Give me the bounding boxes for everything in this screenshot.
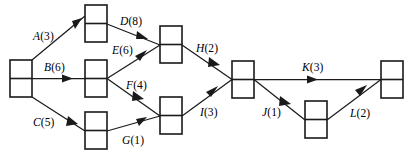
arrow-head-k <box>307 76 318 84</box>
edge-label-b: B(6) <box>44 62 65 74</box>
edge-label-a: A(3) <box>33 31 54 43</box>
node-layer <box>10 5 403 149</box>
edge-g <box>107 116 160 131</box>
edge-label-k: K(3) <box>302 62 324 74</box>
arrow-head-f <box>132 91 144 101</box>
edge-label-i: I(3) <box>200 107 218 119</box>
arrow-head-l <box>355 85 367 96</box>
arrow-head-g <box>136 117 147 126</box>
edge-label-d: D(8) <box>120 16 142 28</box>
project-network-diagram: A(3) B(6) C(5) D(8) E(6) F(4) G(1) H(2) … <box>0 0 413 164</box>
lower-right-node[interactable] <box>305 101 327 138</box>
end-node[interactable] <box>381 61 403 98</box>
top-left-node[interactable] <box>85 5 107 42</box>
edge-label-g: G(1) <box>122 135 144 147</box>
bottom-left-node[interactable] <box>85 112 107 149</box>
arrow-head-a <box>72 18 82 29</box>
merge-node[interactable] <box>232 61 254 98</box>
edge-label-j: J(1) <box>262 107 281 119</box>
middle-left-node[interactable] <box>85 60 107 97</box>
lower-mid-node[interactable] <box>160 97 182 134</box>
edge-label-l: L(2) <box>350 108 370 120</box>
arrow-head-c <box>66 116 78 126</box>
edge-b <box>32 75 85 83</box>
arrow-head-j <box>279 96 291 106</box>
arrow-head-h <box>208 57 220 67</box>
edge-label-c: C(5) <box>33 117 55 129</box>
start-node[interactable] <box>10 60 32 97</box>
edge-label-e: E(6) <box>112 45 133 57</box>
network-graph-canvas <box>0 0 413 164</box>
edge-label-f: F(4) <box>126 80 147 92</box>
arrow-head-b <box>62 75 73 83</box>
upper-mid-node[interactable] <box>160 26 182 63</box>
arrow-head-d <box>136 31 148 39</box>
edge-label-h: H(2) <box>196 43 218 55</box>
edge-k <box>254 76 381 84</box>
